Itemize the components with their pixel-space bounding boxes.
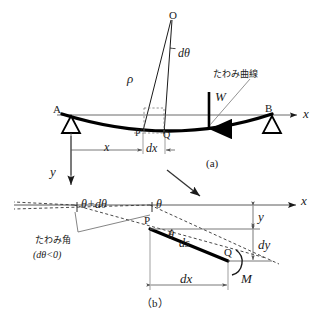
label-point-q-b: Q [224, 247, 232, 258]
label-dim-x: x [104, 141, 109, 153]
label-axis-y: y [50, 165, 56, 178]
label-point-p-b: P [144, 215, 150, 226]
label-deflection-angle: たわみ角 [35, 236, 71, 245]
label-dtheta-condition: (dθ<0) [33, 250, 61, 260]
deflection-angle-leader-left [75, 212, 78, 232]
panel-a-graphics [57, 20, 297, 196]
radius-line-right [164, 20, 172, 134]
label-support-b: B [265, 103, 272, 114]
label-point-o: O [169, 10, 177, 21]
label-load-w: W [215, 90, 226, 103]
dtheta-arc [170, 48, 176, 49]
radius-lines-group [143, 20, 176, 134]
label-point-p-prime: P' [135, 128, 142, 138]
label-rho: ρ [127, 72, 133, 85]
label-theta-at-p: θ [168, 229, 174, 241]
label-axis-x-a: x [303, 107, 309, 120]
panel-b-graphics [14, 202, 296, 290]
deflection-angle-leader-group [75, 212, 150, 232]
support-b [263, 116, 281, 133]
label-dim-dx-a: dx [146, 142, 157, 154]
label-dim-dy: dy [258, 238, 270, 251]
label-moment-m: M [241, 272, 252, 285]
label-dim-y: y [258, 210, 264, 223]
label-axis-x-b: x [301, 194, 307, 207]
label-support-a: A [53, 104, 61, 115]
label-d-theta: dθ [178, 47, 190, 59]
caption-panel-a: (a) [206, 158, 218, 169]
label-point-q-a: Q [163, 130, 170, 140]
label-dim-dx-b: dx [180, 272, 192, 285]
figure-root: O dθ ρ W A B x P' Q x dx y たわみ曲線 (a) x θ… [0, 0, 328, 327]
caption-panel-b: （b） [141, 298, 169, 309]
support-b-triangle [263, 116, 281, 133]
label-angle-theta-axis: θ [156, 198, 162, 210]
label-arc-ds: ds [179, 237, 190, 249]
zoom-arrow [167, 170, 200, 196]
label-deflection-curve: たわみ曲線 [213, 70, 258, 79]
radius-line-left [143, 20, 171, 131]
label-angle-theta-plus-dtheta: θ+dθ [81, 198, 107, 210]
deflection-angle-leader-right [78, 215, 150, 232]
